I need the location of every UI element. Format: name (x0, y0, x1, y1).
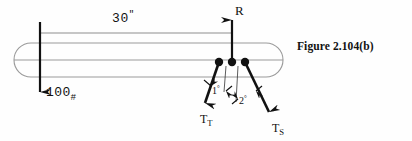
dimension-30-value: 30 (112, 11, 129, 26)
attachment-pins (215, 58, 249, 66)
angle-1-unit: ° (217, 84, 220, 92)
tension-tt-label: TT (200, 112, 213, 128)
angle-reference-lines (224, 66, 238, 102)
applied-load-value: 100 (46, 85, 71, 100)
tension-ts-label: TS (272, 121, 284, 137)
angle-2-label: 2° (239, 94, 247, 106)
pin-center-icon (228, 58, 236, 66)
tension-ts-sub: S (279, 127, 284, 137)
dimension-30-label: 30" (112, 9, 135, 26)
applied-load-label: 100# (46, 85, 77, 103)
applied-load-unit: # (71, 92, 77, 103)
cable-tension-ts-arrow (245, 62, 269, 112)
tension-tt-sub: T (207, 118, 212, 128)
figure-screenshot: 30" 100# R TT TS 1° 2° Figure 2.104(b) (0, 0, 412, 141)
angle-2-unit: ° (244, 94, 247, 102)
pin-right-icon (241, 58, 249, 66)
angle-1-label: 1° (212, 84, 220, 96)
pin-left-icon (215, 58, 223, 66)
reaction-label: R (235, 3, 244, 19)
dimension-30-unit: " (129, 9, 135, 20)
figure-caption: Figure 2.104(b) (297, 40, 374, 52)
